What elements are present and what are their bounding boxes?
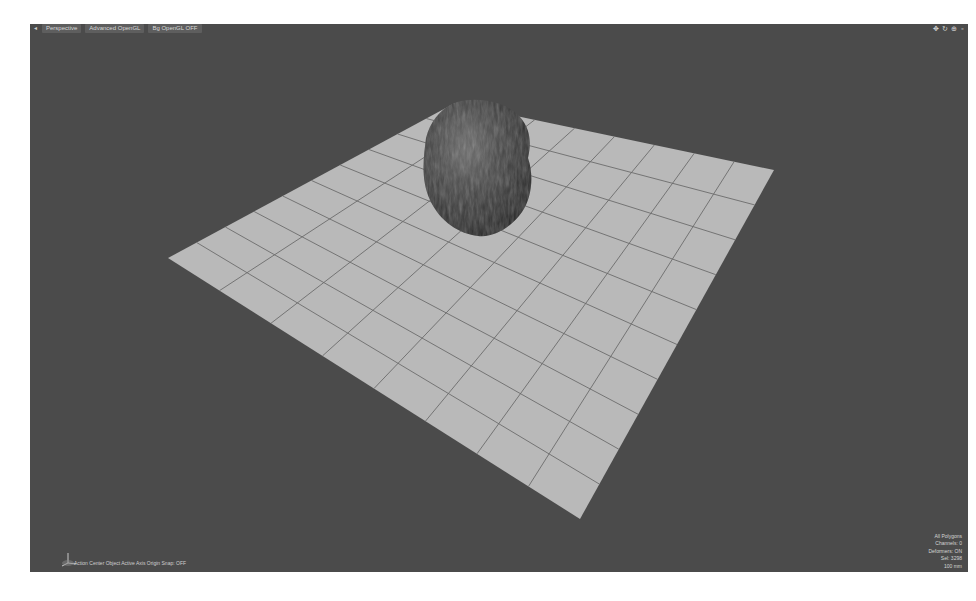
status-bar: Action Center Object Active Axis Origin … [74, 560, 186, 566]
3d-viewport[interactable]: ◂ Perspective Advanced OpenGL Bg OpenGL … [30, 24, 968, 572]
rotate-view-icon[interactable]: ↻ [941, 25, 948, 33]
move-view-icon[interactable]: ✥ [932, 25, 939, 33]
info-panel: All Polygons Channels: 0 Deformers: ON S… [928, 533, 962, 571]
info-line: Channels: 0 [928, 540, 962, 548]
info-line: Sel: 3298 [928, 555, 962, 563]
maximize-icon[interactable]: ▫ [959, 25, 966, 33]
viewport-menu-icon[interactable]: ◂ [32, 24, 38, 33]
scene-render[interactable] [30, 24, 968, 572]
viewport-header: ◂ Perspective Advanced OpenGL Bg OpenGL … [30, 24, 202, 33]
vbo-toggle[interactable]: Bg OpenGL OFF [148, 24, 201, 33]
view-type-dropdown[interactable]: Perspective [42, 24, 81, 33]
info-line: Deformers: ON [928, 548, 962, 556]
info-line: All Polygons [928, 533, 962, 541]
info-line: 100 mm [928, 563, 962, 571]
viewport-nav-tools: ✥ ↻ ⊕ ▫ [932, 25, 966, 33]
zoom-view-icon[interactable]: ⊕ [950, 25, 957, 33]
render-mode-dropdown[interactable]: Advanced OpenGL [85, 24, 144, 33]
